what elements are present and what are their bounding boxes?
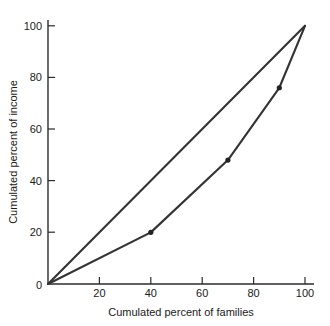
lorenz-curve-chart: 100 80 60 40 20 0 20 40 60 80 100 Cumula…: [0, 0, 330, 326]
data-point-marker: [277, 85, 282, 90]
y-tick-label-60: 60: [30, 123, 42, 135]
chart-canvas: 100 80 60 40 20 0 20 40 60 80 100 Cumula…: [0, 0, 330, 326]
x-axis-title: Cumulated percent of families: [108, 306, 254, 318]
y-tick-label-40: 40: [30, 175, 42, 187]
y-tick-label-20: 20: [30, 226, 42, 238]
origin-label: 0: [36, 279, 42, 291]
line-of-equality: [48, 26, 305, 284]
x-tick-label-80: 80: [247, 287, 259, 299]
x-tick-label-60: 60: [196, 287, 208, 299]
x-tick-label-40: 40: [145, 287, 157, 299]
x-tick-label-100: 100: [296, 287, 314, 299]
data-point-marker: [148, 230, 153, 235]
series-layer: [48, 26, 305, 284]
y-tick-label-80: 80: [30, 71, 42, 83]
data-point-marker: [225, 157, 230, 162]
y-axis-title: Cumulated percent of income: [7, 80, 19, 224]
y-tick-label-100: 100: [24, 20, 42, 32]
x-tick-label-20: 20: [93, 287, 105, 299]
